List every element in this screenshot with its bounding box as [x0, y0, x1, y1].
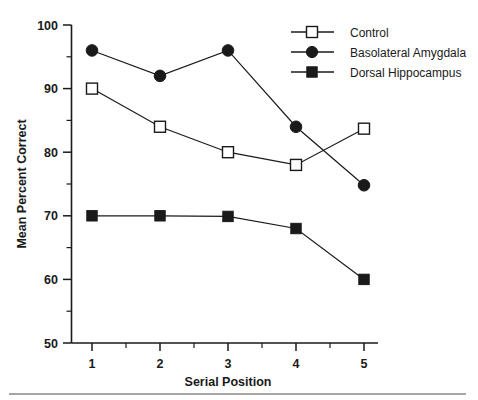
x-axis-title: Serial Position: [185, 375, 272, 389]
y-tick-label: 50: [44, 337, 58, 351]
legend: Control Basolateral Amygdala Dorsal Hipp…: [291, 26, 466, 80]
legend-item-basolateral-amygdala[interactable]: Basolateral Amygdala: [291, 46, 466, 60]
data-point-open-square: [359, 123, 370, 134]
data-point-filled-square: [359, 274, 369, 284]
data-point-open-square: [155, 121, 166, 132]
x-tick-label: 2: [157, 357, 164, 371]
y-tick-label: 70: [44, 209, 58, 223]
y-tick-label: 100: [37, 19, 58, 33]
data-point-filled-square: [291, 223, 301, 233]
series-dorsal-hippocampus: [87, 211, 369, 285]
y-tick-label: 80: [44, 146, 58, 160]
legend-item-dorsal-hippocampus[interactable]: Dorsal Hippocampus: [291, 66, 461, 80]
x-axis: [72, 343, 379, 351]
y-tick-label: 60: [44, 273, 58, 287]
data-point-filled-square: [223, 211, 233, 221]
data-point-filled-circle: [358, 179, 370, 191]
figure-container: 100 90 80 70 60 50 1 2 3 4 5 Mean Percen…: [0, 0, 478, 400]
data-point-filled-circle: [290, 121, 302, 133]
series-basolateral-amygdala: [86, 45, 370, 191]
series-control: [87, 83, 370, 170]
filled-circle-icon: [306, 46, 317, 57]
open-square-icon: [307, 27, 318, 38]
legend-label: Basolateral Amygdala: [350, 46, 466, 60]
data-point-filled-square: [87, 211, 97, 221]
data-point-filled-circle: [86, 45, 98, 57]
x-tick-label: 3: [225, 357, 232, 371]
data-point-open-square: [291, 159, 302, 170]
filled-square-icon: [307, 67, 317, 77]
legend-label: Dorsal Hippocampus: [350, 66, 461, 80]
data-point-filled-square: [155, 211, 165, 221]
legend-item-control[interactable]: Control: [291, 26, 389, 40]
legend-label: Control: [350, 26, 389, 40]
data-point-filled-circle: [154, 70, 166, 82]
data-point-open-square: [223, 147, 234, 158]
y-tick-labels: 100 90 80 70 60 50: [37, 19, 58, 351]
data-point-filled-circle: [222, 45, 234, 57]
line-chart: 100 90 80 70 60 50 1 2 3 4 5 Mean Percen…: [0, 0, 478, 400]
x-tick-labels: 1 2 3 4 5: [89, 357, 368, 371]
data-point-open-square: [87, 83, 98, 94]
y-axis: [63, 25, 72, 343]
x-tick-label: 1: [89, 357, 96, 371]
y-tick-label: 90: [44, 82, 58, 96]
x-tick-label: 4: [293, 357, 300, 371]
x-tick-label: 5: [361, 357, 368, 371]
y-axis-title: Mean Percent Correct: [15, 119, 29, 249]
